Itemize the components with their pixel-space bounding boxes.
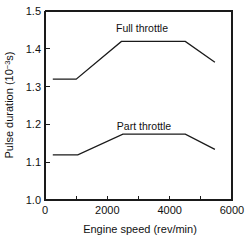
y-tick-label-1.1: 1.1 [26,156,41,168]
x-tick-label-4000: 4000 [157,204,181,216]
series-line-part-throttle [53,134,215,155]
y-tick-label-1.3: 1.3 [26,81,41,93]
y-tick-label-1.0: 1.0 [26,194,41,206]
chart-figure: 1.5 1.4 1.3 1.2 1.1 1.0 0 2000 4000 6000… [0,0,249,248]
line-chart: 1.5 1.4 1.3 1.2 1.1 1.0 0 2000 4000 6000… [0,0,249,248]
y-tick-label-1.2: 1.2 [26,118,41,130]
y-axis-tick-labels: 1.5 1.4 1.3 1.2 1.1 1.0 [26,5,41,206]
y-axis-title-text: Pulse duration (10−3s) [3,51,16,158]
series-label-part-throttle: Part throttle [117,120,171,132]
y-axis-title: Pulse duration (10−3s) [3,51,16,158]
x-axis-tick-labels: 0 2000 4000 6000 [42,204,244,216]
x-tick-label-6000: 6000 [220,204,244,216]
x-tick-label-0: 0 [42,204,48,216]
y-tick-label-1.5: 1.5 [26,5,41,17]
y-tick-label-1.4: 1.4 [26,43,41,55]
axis-frame [45,11,232,200]
y-axis-title-tail: s) [3,51,15,60]
x-tick-label-2000: 2000 [95,204,119,216]
y-axis-title-base: Pulse duration (10 [3,69,15,158]
x-axis-title: Engine speed (rev/min) [83,223,197,235]
y-axis-title-exponent: −3 [3,61,12,70]
series-label-full-throttle: Full throttle [116,22,168,34]
series-line-full-throttle [53,41,215,79]
